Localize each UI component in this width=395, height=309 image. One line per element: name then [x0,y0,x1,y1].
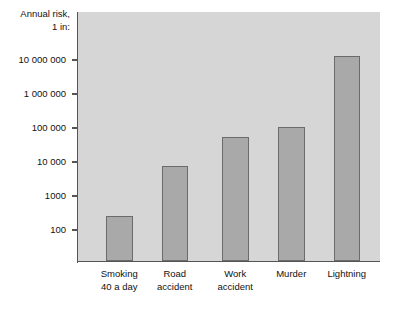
bar [334,56,361,261]
y-axis-tick [72,59,78,60]
y-axis-tick [72,127,78,128]
y-axis-title-text-1: Annual risk, [20,8,70,19]
y-axis-title-text-2: 1 in: [52,21,70,32]
y-axis-tick [72,229,78,230]
y-axis-line [77,12,78,263]
x-axis-category-label: Lightning [307,268,387,281]
bar-chart: Smoking Annual risk, 1 in: 100100010 000… [0,0,395,309]
y-axis-tick-label: 100 [2,224,66,235]
y-axis-tick [72,93,78,94]
y-axis-tick-label: 10 000 [2,156,66,167]
x-axis-category-label-line: accident [195,281,275,294]
bar [162,166,189,261]
bar [106,216,133,261]
y-axis-tick-label: 100 000 [2,122,66,133]
y-axis-tick-label: 10 000 000 [2,54,66,65]
x-axis-category-label-line: Lightning [307,268,387,281]
y-axis-tick [72,195,78,196]
y-axis-tick-label: 1 000 000 [2,88,66,99]
y-axis-tick-label: 1000 [2,190,66,201]
y-axis-title: Smoking Annual risk, 1 in: [4,8,70,33]
y-axis-tick [72,161,78,162]
bar [222,137,249,262]
bar [278,127,305,262]
